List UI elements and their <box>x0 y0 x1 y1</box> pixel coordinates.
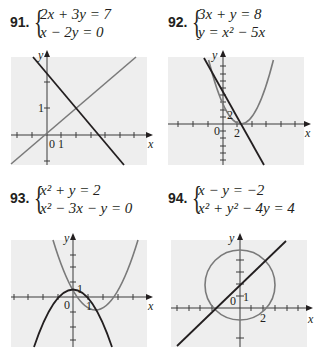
x-axis-label: x <box>147 299 154 313</box>
y-axis-arrow-icon <box>237 233 243 240</box>
y-axis-arrow-icon <box>70 233 76 240</box>
origin-label: 0 <box>49 137 55 151</box>
y-axis-label: y <box>228 231 235 245</box>
equation-1: 3x + y = 8 <box>198 6 262 23</box>
x-tick-label: 2 <box>234 126 240 140</box>
y-tick-label: 1 <box>77 282 83 296</box>
graph-94: y x 0 1 2 <box>155 225 318 350</box>
graph-panel <box>168 57 304 165</box>
x-axis-arrow-icon <box>306 305 313 311</box>
x-tick-label: 1 <box>86 299 92 313</box>
origin-label: 0 <box>64 298 70 312</box>
equation-1: x² + y = 2 <box>40 182 101 199</box>
graph-91: y x 0 1 1 <box>0 45 160 170</box>
equation-2: x − 2y = 0 <box>40 24 104 41</box>
problem-number: 94. <box>168 190 187 206</box>
problem-number: 93. <box>10 190 29 206</box>
origin-label: 0 <box>230 294 236 308</box>
equation-2: x² − 3x − y = 0 <box>40 200 132 217</box>
equation-1: x − y = −2 <box>198 182 264 199</box>
y-axis-label: y <box>63 231 70 245</box>
y-axis-label: y <box>211 48 218 62</box>
problem-number: 91. <box>10 14 29 30</box>
y-axis-arrow-icon <box>220 50 226 57</box>
graph-92: y x 0 2 2 <box>155 45 318 170</box>
y-axis-label: y <box>37 48 44 62</box>
y-tick-label: 2 <box>227 108 233 122</box>
x-tick-label: 2 <box>260 311 266 325</box>
x-axis-label: x <box>304 126 311 140</box>
origin-label: 0 <box>214 124 220 138</box>
y-axis-arrow-icon <box>44 50 50 57</box>
y-tick-label: 1 <box>38 101 44 115</box>
equation-2: x² + y² − 4y = 4 <box>198 200 295 217</box>
equation-2: y = x² − 5x <box>198 24 265 41</box>
graph-93: y x 0 1 1 <box>0 225 160 350</box>
equation-1: 2x + 3y = 7 <box>40 6 111 23</box>
x-axis-label: x <box>147 137 154 151</box>
x-axis-label: x <box>307 312 314 326</box>
y-tick-label: 1 <box>243 290 249 304</box>
x-tick-label: 1 <box>58 137 64 151</box>
problem-number: 92. <box>168 14 187 30</box>
